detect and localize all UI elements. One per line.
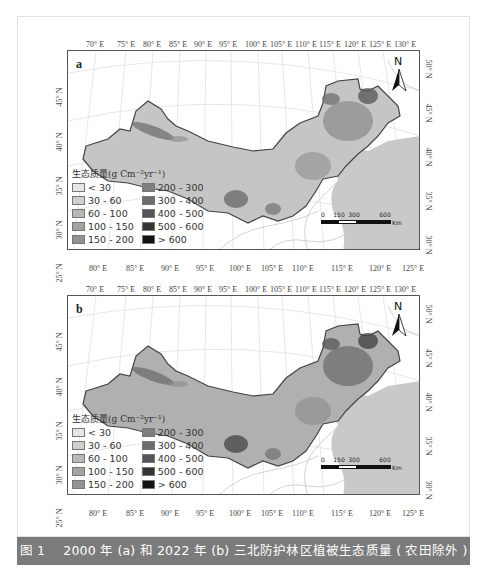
legend-label: 60 - 100 [88,453,128,464]
legend-swatch [142,183,155,192]
scale-label: 300 [348,456,359,463]
legend-label: 300 - 400 [158,195,204,206]
latitude-label-right: 35° N [424,437,433,456]
legend-label: 30 - 60 [88,440,122,451]
longitude-label-top: 95° E [219,285,237,294]
legend-swatch [72,222,85,231]
longitude-label-bottom: 95° E [196,264,214,273]
legend-item: 150 - 200 [72,234,134,245]
longitude-label-bottom: 120° E [369,509,391,518]
panel-label: a [76,57,82,72]
longitude-label-top: 100° E [245,40,267,49]
legend-item: 60 - 100 [72,208,134,219]
north-arrow: N [389,302,409,336]
legend-label: 500 - 600 [158,466,204,477]
legend-swatch [72,196,85,205]
legend-label: 100 - 150 [88,221,134,232]
legend-item: < 30 [72,182,134,193]
scale-bar: 0 150 300 600 Km [321,211,401,233]
longitude-label-top: 110° E [295,285,317,294]
latitude-label-right: 35° N [424,192,433,211]
legend-label: 400 - 500 [158,208,204,219]
longitude-label-bottom: 120° E [369,264,391,273]
latitude-label-left: 25° N [55,509,64,528]
legend-label: 500 - 600 [158,221,204,232]
latitude-label-right: 45° N [424,104,433,123]
figure-caption: 图 1 2000 年 (a) 和 2022 年 (b) 三北防护林区植被生态质量… [17,537,470,565]
legend-label: > 600 [158,479,187,490]
map-panel-a: a N 生态质量(g Cm⁻²yr⁻¹) < 30200 - 30030 - 6… [67,50,420,250]
scale-label: 300 [348,211,359,218]
legend-swatch [72,209,85,218]
latitude-label-right: 45° N [424,349,433,368]
longitude-label-top: 75° E [117,40,135,49]
legend-swatch [72,467,85,476]
scale-unit: Km [392,219,402,226]
longitude-label-bottom: 85° E [126,509,144,518]
longitude-label-top: 115° E [319,285,341,294]
longitude-label-top: 130° E [394,40,416,49]
legend-swatch [142,480,155,489]
legend-swatch [142,222,155,231]
longitude-label-top: 110° E [295,40,317,49]
legend-swatch [72,183,85,192]
map-panel-b: b N 生态质量(g Cm⁻²yr⁻¹) < 30200 - 30030 - 6… [67,295,420,495]
legend-title: 生态质量(g Cm⁻²yr⁻¹) [72,167,203,180]
latitude-label-left: 25° N [55,264,64,283]
longitude-label-bottom: 105° E [261,509,283,518]
latitude-label-left: 40° N [55,378,64,397]
legend-item: < 30 [72,427,134,438]
latitude-label-left: 30° N [55,221,64,240]
legend-title: 生态质量(g Cm⁻²yr⁻¹) [72,412,203,425]
longitude-label-bottom: 115° E [331,509,353,518]
north-arrow-icon [389,314,409,336]
latitude-label-left: 30° N [55,466,64,485]
latitude-label-right: 30° N [424,481,433,500]
legend-label: 100 - 150 [88,466,134,477]
scale-bar-graphic [321,465,391,469]
legend-item: > 600 [142,234,204,245]
panel-label: b [76,302,83,317]
legend-swatch [72,480,85,489]
longitude-label-bottom: 115° E [331,264,353,273]
caption-text: 2000 年 (a) 和 2022 年 (b) 三北防护林区植被生态质量 ( 农… [63,543,467,570]
longitude-label-top: 130° E [394,285,416,294]
legend-swatch [142,428,155,437]
legend-label: 150 - 200 [88,234,134,245]
longitude-label-bottom: 100° E [229,264,251,273]
scale-label: 0 [321,211,325,218]
scale-label: 600 [379,211,390,218]
scale-label: 0 [321,456,325,463]
legend-swatch [142,467,155,476]
north-arrow-label: N [394,55,402,68]
scale-bar: 0 150 300 600 Km [321,456,401,478]
longitude-label-bottom: 105° E [261,264,283,273]
legend-label: < 30 [88,427,111,438]
latitude-label-right: 40° N [424,148,433,167]
legend-swatch [72,428,85,437]
scale-unit: Km [392,464,402,471]
legend-item: 60 - 100 [72,453,134,464]
longitude-label-top: 105° E [270,285,292,294]
legend-item: > 600 [142,479,204,490]
legend-swatch [142,235,155,244]
latitude-label-right: 30° N [424,236,433,255]
north-arrow: N [389,57,409,91]
legend-label: 400 - 500 [158,453,204,464]
legend-item: 150 - 200 [72,479,134,490]
longitude-label-top: 90° E [194,285,212,294]
scale-label: 600 [379,456,390,463]
legend-item: 100 - 150 [72,466,134,477]
longitude-label-top: 120° E [344,40,366,49]
legend: 生态质量(g Cm⁻²yr⁻¹) < 30200 - 30030 - 60300… [72,167,203,245]
legend-swatch [72,441,85,450]
legend-swatch [142,196,155,205]
legend-label: 300 - 400 [158,440,204,451]
longitude-label-bottom: 80° E [89,509,107,518]
legend-item: 300 - 400 [142,440,204,451]
legend-item: 30 - 60 [72,195,134,206]
latitude-label-left: 45° N [55,88,64,107]
legend-item: 400 - 500 [142,453,204,464]
longitude-label-top: 85° E [169,285,187,294]
longitude-label-top: 115° E [319,40,341,49]
